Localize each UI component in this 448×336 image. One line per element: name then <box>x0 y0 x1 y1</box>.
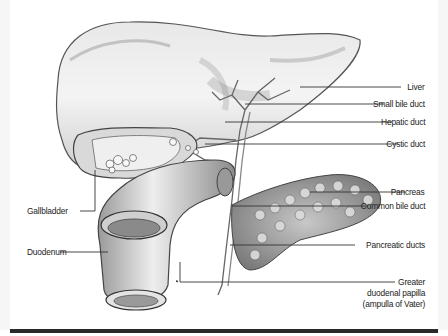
duodenum-shape <box>98 160 235 310</box>
label-small-bile-duct: Small bile duct <box>373 98 425 109</box>
label-greater-line1: Greater <box>362 276 425 287</box>
label-pancreatic-ducts: Pancreatic ducts <box>366 239 425 250</box>
label-greater-line3: (ampulla of Vater) <box>362 298 425 309</box>
label-gallbladder: Gallbladder <box>27 205 68 216</box>
bottom-rule <box>10 329 438 333</box>
label-common-bile-duct: Common bile duct <box>360 200 425 211</box>
label-hepatic-duct: Hepatic duct <box>381 116 425 127</box>
pancreas-shape <box>232 175 381 270</box>
label-liver: Liver <box>408 81 425 92</box>
label-cystic-duct: Cystic duct <box>386 138 425 149</box>
anatomy-figure: Liver Small bile duct Hepatic duct Cysti… <box>0 0 448 336</box>
label-greater-line2: duodenal papilla <box>362 287 425 298</box>
label-duodenum: Duodenum <box>27 246 66 257</box>
label-pancreas: Pancreas <box>391 186 425 197</box>
label-greater-duodenal-papilla: Greater duodenal papilla (ampulla of Vat… <box>362 276 425 309</box>
